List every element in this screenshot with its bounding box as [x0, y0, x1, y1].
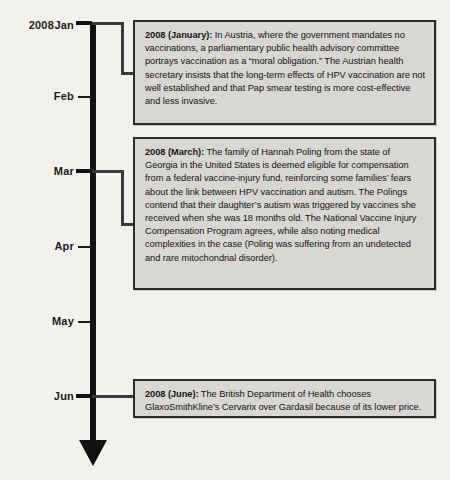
event-march-body: The family of Hannah Poling from the sta…: [145, 147, 416, 263]
axis-tick-jun: [76, 394, 92, 398]
event-june-text: 2008 (June): The British Department of H…: [145, 388, 425, 414]
month-label-jun: Jun: [30, 390, 74, 402]
event-january-body: In Austria, where the government mandate…: [145, 30, 425, 106]
connector-jan-segment-1: [92, 22, 124, 25]
month-label-may: May: [30, 315, 74, 327]
month-label-feb: Feb: [30, 90, 74, 102]
timeline-axis-line: [90, 22, 96, 442]
event-box-june[interactable]: 2008 (June): The British Department of H…: [133, 379, 436, 418]
event-june-lead: 2008 (June):: [145, 389, 199, 399]
month-label-apr: Apr: [30, 240, 74, 252]
event-march-text: 2008 (March): The family of Hannah Polin…: [145, 146, 425, 265]
axis-tick-may: [78, 321, 91, 323]
axis-tick-feb: [78, 96, 91, 98]
month-label-jan: Jan: [30, 19, 74, 31]
connector-jun-segment-1: [92, 395, 135, 398]
connector-mar-segment-1: [92, 170, 124, 173]
down-arrow-icon: [79, 440, 107, 466]
event-box-march[interactable]: 2008 (March): The family of Hannah Polin…: [133, 137, 436, 290]
axis-tick-mar: [76, 169, 92, 173]
axis-tick-jan: [76, 21, 92, 25]
connector-mar-segment-2: [121, 170, 124, 226]
event-january-lead: 2008 (January):: [145, 30, 212, 40]
axis-tick-apr: [78, 246, 91, 248]
event-march-lead: 2008 (March):: [145, 147, 204, 157]
connector-jan-segment-2: [121, 22, 124, 74]
event-box-january[interactable]: 2008 (January): In Austria, where the go…: [133, 20, 436, 125]
timeline-canvas: 2008 Jan Feb Mar Apr May Jun 2008 (Janua…: [0, 0, 450, 480]
event-january-text: 2008 (January): In Austria, where the go…: [145, 29, 425, 108]
month-label-mar: Mar: [30, 165, 74, 177]
